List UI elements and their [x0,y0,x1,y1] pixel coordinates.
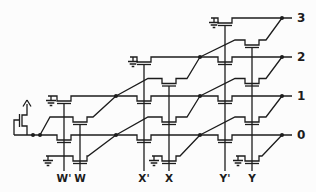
input-label-x: X [165,172,173,184]
input-label-w-prime: W' [57,172,72,184]
diag-y-line1-to-line2 [200,57,282,96]
diag-y-line0-to-line1 [200,96,282,135]
input-label-y: Y [247,172,256,184]
tally-circuit-schematic: 3 2 1 0 W' W X' X Y' Y [0,0,316,192]
diag-y-line2-to-line3 [200,18,282,57]
junction-dot [31,133,35,137]
input-label-w: W [74,172,86,184]
output-line-1 [48,96,292,101]
diag-x-gnd-to-line0 [152,135,200,161]
junction-dot [38,133,42,137]
input-label-y-prime: Y' [219,172,231,184]
output-label-1: 1 [297,89,305,103]
schematic-frame: 3 2 1 0 W' W X' X Y' Y [0,0,316,192]
junction-dot [280,133,284,137]
input-label-x-prime: X' [138,172,149,184]
diag-w-line0-to-line1 [40,96,116,135]
junction-dot [198,55,202,59]
diag-y-gnd-to-line0 [236,135,282,161]
output-label-3: 3 [297,11,305,25]
pullup-load-transistor [14,100,31,135]
junction-dot [198,133,202,137]
pullup-gate-feedback [14,120,20,135]
output-line-2 [130,57,292,62]
ground-icon-line1-start [46,96,56,106]
junction-dot [114,94,118,98]
diag-x-line0-to-line1 [116,96,200,135]
junction-dot [280,94,284,98]
junction-dot [114,133,118,137]
diag-x-line1-to-line2 [116,57,200,96]
junction-dot [198,94,202,98]
ground-icon-y-stage [233,156,243,166]
output-label-2: 2 [297,50,305,64]
output-label-0: 0 [297,128,305,142]
ground-icon-w-stage [43,156,53,166]
junction-dot [280,16,284,20]
ground-icon-x-stage [149,156,159,166]
pullup-channel [22,104,27,135]
junction-dot [280,55,284,59]
output-line-0 [14,135,292,140]
